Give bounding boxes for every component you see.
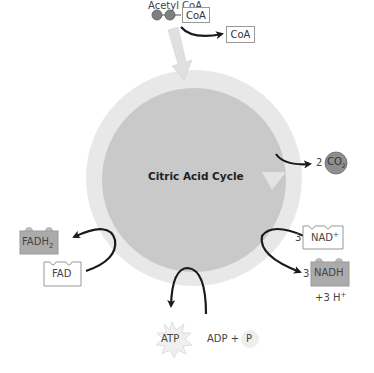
fad-label: FAD	[52, 268, 71, 279]
coa-release-arrow	[181, 27, 222, 36]
nadh-label: NADH	[314, 267, 344, 278]
adp-label: ADP +	[207, 333, 239, 344]
diagram-graphics	[0, 0, 374, 373]
nadh-count: 3	[303, 268, 309, 279]
coa-released-box: CoA	[226, 26, 255, 43]
coa-carrier-label: CoA	[186, 10, 206, 21]
co2-label: CO2	[327, 156, 346, 169]
acetyl-ball-1	[152, 10, 162, 20]
co2-count: 2	[316, 157, 322, 168]
fadh2-label: FADH2	[22, 236, 53, 250]
nad-count: 3	[295, 232, 301, 243]
coa-released-label: CoA	[231, 29, 251, 40]
nad-label: NAD+	[311, 231, 339, 243]
phosphate-label: P	[246, 333, 252, 344]
proton-label: +3 H+	[315, 291, 346, 303]
coa-carrier-box: CoA	[182, 7, 210, 23]
atp-label: ATP	[161, 333, 179, 344]
cycle-title: Citric Acid Cycle	[148, 170, 244, 182]
acetyl-ball-2	[165, 10, 175, 20]
